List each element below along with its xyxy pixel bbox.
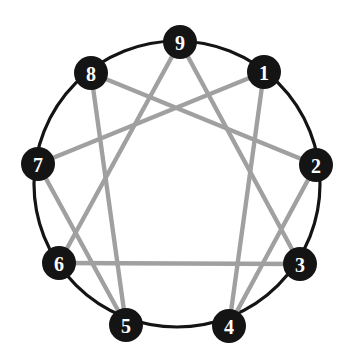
node-label-4: 4 [224,316,234,338]
enneagram-node-4[interactable]: 4 [212,309,246,343]
node-label-8: 8 [86,63,96,85]
enneagram-node-2[interactable]: 2 [299,148,333,182]
node-label-1: 1 [259,62,269,84]
enneagram-node-5[interactable]: 5 [109,308,143,342]
enneagram-node-3[interactable]: 3 [283,247,317,281]
node-label-2: 2 [311,155,321,177]
inner-line-3-6 [59,263,300,264]
enneagram-svg: 123456789 [0,0,354,364]
enneagram-node-7[interactable]: 7 [21,147,55,181]
node-label-3: 3 [295,254,305,276]
enneagram-figure: 123456789 [0,0,354,364]
enneagram-node-8[interactable]: 8 [74,56,108,90]
node-label-9: 9 [175,32,185,54]
enneagram-node-9[interactable]: 9 [163,25,197,59]
enneagram-node-1[interactable]: 1 [247,55,281,89]
enneagram-node-6[interactable]: 6 [42,246,76,280]
node-label-6: 6 [54,253,64,275]
node-label-5: 5 [121,315,131,337]
node-label-7: 7 [33,154,43,176]
